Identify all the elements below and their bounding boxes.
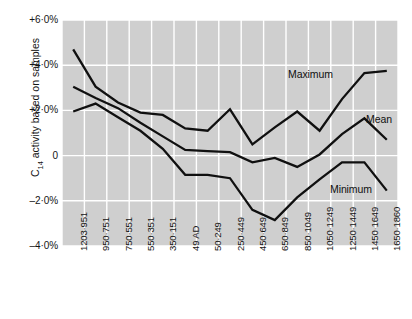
x-axis-tick-label: 250·449 xyxy=(235,217,246,251)
x-axis-tick-label: 850·1049 xyxy=(302,212,313,251)
x-axis-tick-label: 1650·1860 xyxy=(391,207,402,251)
series-label-minimum: Minimum xyxy=(330,183,372,195)
x-axis-tick-label: 750·551 xyxy=(123,217,134,251)
x-axis-tick-label: 350·151 xyxy=(167,217,178,251)
chart-figure: C14 activity based on samples +6·0%+4·0%… xyxy=(0,0,412,319)
series-line-minimum xyxy=(73,104,387,220)
x-axis-tick-label: 1050·1249 xyxy=(324,207,335,251)
x-axis-tick-label: 550·351 xyxy=(145,217,156,251)
x-axis-tick-label: 1203·951 xyxy=(78,212,89,251)
x-axis-tick-label: 1450·1649 xyxy=(369,207,380,251)
x-axis-tick-label: 650·849 xyxy=(279,217,290,251)
series-label-mean: Mean xyxy=(366,113,392,125)
x-axis-tick-label: 450·649 xyxy=(257,217,268,251)
x-axis-tick-label: 49 AD xyxy=(190,226,201,251)
x-axis-tick-label: 1250·1449 xyxy=(347,207,358,251)
x-axis-tick-label: 950·751 xyxy=(100,217,111,251)
chart-canvas xyxy=(0,0,412,319)
series-label-maximum: Maximum xyxy=(288,68,333,80)
series-line-mean xyxy=(73,87,387,167)
x-axis-tick-label: 50·249 xyxy=(212,222,223,251)
series-line-maximum xyxy=(73,49,387,144)
